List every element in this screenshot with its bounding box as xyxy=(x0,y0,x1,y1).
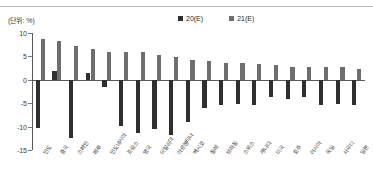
bar-21E-스위스 xyxy=(240,63,244,79)
bar-group xyxy=(99,33,116,150)
bar-20E-멕시코 xyxy=(186,80,190,122)
bar-20E-캐나다 xyxy=(252,80,256,105)
bar-21E-독일 xyxy=(324,67,328,80)
y-tick-label: -5 xyxy=(21,100,27,107)
bar-20E-칠레 xyxy=(202,80,206,108)
bar-21E-프랑스 xyxy=(124,52,128,80)
bar-group xyxy=(265,33,282,150)
y-tick-label: 5 xyxy=(23,53,27,60)
y-tick-label: 10 xyxy=(19,30,27,37)
bar-group xyxy=(248,33,265,150)
bar-20E-영국 xyxy=(136,80,140,133)
chart-legend: 20(E)21(E) xyxy=(178,15,254,22)
bar-20E-브라질 xyxy=(219,80,223,105)
bar-21E-아르헨티나 xyxy=(174,57,178,80)
x-axis-labels: 인도중국스페인페루인도네시아프랑스영국이탈리아아르헨티나멕시코칠레브라질스위스캐… xyxy=(32,152,365,195)
legend-label: 21(E) xyxy=(237,15,254,22)
bar-21E-캐나다 xyxy=(257,64,261,79)
bar-20E-중국 xyxy=(52,71,56,79)
bar-group xyxy=(82,33,99,150)
bar-group xyxy=(132,33,149,150)
bar-20E-페루 xyxy=(86,73,90,80)
bar-20E-미국 xyxy=(269,80,273,97)
bar-group xyxy=(315,33,332,150)
bar-21E-브라질 xyxy=(224,63,228,80)
y-tick-label: -10 xyxy=(17,123,27,130)
bar-group xyxy=(215,33,232,150)
legend-item-0: 20(E) xyxy=(178,15,203,22)
bar-20E-독일 xyxy=(319,80,323,105)
bar-group xyxy=(332,33,349,150)
bar-20E-프랑스 xyxy=(119,80,123,126)
bar-20E-일본 xyxy=(352,80,356,105)
header-divider xyxy=(0,6,373,7)
bar-20E-아르헨티나 xyxy=(169,80,173,135)
bar-21E-페루 xyxy=(91,49,95,80)
bar-21E-인도네시아 xyxy=(107,52,111,80)
bar-group xyxy=(298,33,315,150)
chart-figure: (단위: %) 20(E)21(E) 1050-5-10-15 인도중국스페인페… xyxy=(0,0,373,195)
unit-note: (단위: %) xyxy=(8,15,35,25)
legend-swatch-icon xyxy=(229,16,234,21)
bar-group xyxy=(232,33,249,150)
bar-group xyxy=(65,33,82,150)
bar-group xyxy=(348,33,365,150)
bar-group xyxy=(32,33,49,150)
y-tick-mark xyxy=(28,150,32,151)
bar-20E-이탈리아 xyxy=(152,80,156,130)
bar-20E-인도 xyxy=(36,80,40,128)
bar-20E-스위스 xyxy=(236,80,240,104)
bar-21E-칠레 xyxy=(207,61,211,80)
bar-21E-멕시코 xyxy=(190,60,194,80)
bar-group-container xyxy=(32,33,365,150)
bar-group xyxy=(49,33,66,150)
bar-group xyxy=(165,33,182,150)
bar-21E-일본 xyxy=(357,69,361,80)
plot-area: 1050-5-10-15 xyxy=(32,33,365,150)
bar-20E-스페인 xyxy=(69,80,73,138)
y-tick-label: 0 xyxy=(23,76,27,83)
bar-21E-스페인 xyxy=(74,46,78,80)
bar-21E-인도 xyxy=(41,39,45,80)
bar-21E-이탈리아 xyxy=(157,55,161,79)
bar-20E-인도네시아 xyxy=(102,80,106,87)
bar-20E-사우디 xyxy=(336,80,340,104)
bar-20E-러시아 xyxy=(302,80,306,97)
legend-label: 20(E) xyxy=(186,15,203,22)
bar-21E-중국 xyxy=(57,41,61,79)
bar-group xyxy=(282,33,299,150)
bar-21E-호주 xyxy=(290,67,294,80)
bar-21E-사우디 xyxy=(340,67,344,80)
bar-21E-미국 xyxy=(274,65,278,80)
bar-group xyxy=(149,33,166,150)
bar-21E-러시아 xyxy=(307,67,311,80)
y-tick-label: -15 xyxy=(17,147,27,154)
bar-20E-호주 xyxy=(286,80,290,100)
bar-21E-영국 xyxy=(141,52,145,80)
legend-item-1: 21(E) xyxy=(229,15,254,22)
bar-group xyxy=(199,33,216,150)
legend-swatch-icon xyxy=(178,16,183,21)
